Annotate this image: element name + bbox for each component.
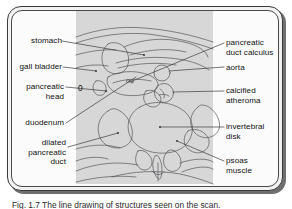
label-pancreatic-head: pancreatic head: [12, 82, 64, 101]
label-invertebral-disk: invertebral disk: [226, 122, 279, 141]
label-duodenum: duodenum: [12, 118, 64, 128]
plate-marker-zero: 0: [78, 84, 83, 93]
label-pancreatic-duct-calculus: pancreatic duct calculus: [226, 38, 279, 57]
ct-scan-plate: [76, 11, 213, 184]
label-psoas-muscle: psoas muscle: [226, 156, 279, 175]
figure-caption: Fig. 1.7 The line drawing of structures …: [12, 200, 282, 209]
label-calcified-atheroma: calcified atheroma: [226, 86, 279, 105]
label-gall-bladder: gall bladder: [12, 62, 62, 72]
label-aorta: aorta: [226, 63, 279, 73]
label-stomach: stomach: [12, 36, 62, 46]
label-dilated-pancreatic-duct: dilated pancreatic duct: [12, 138, 66, 167]
figure-frame-inner: 0 stomach gall bladder pancreatic head d…: [11, 10, 279, 187]
figure-root: 0 stomach gall bladder pancreatic head d…: [0, 0, 292, 209]
